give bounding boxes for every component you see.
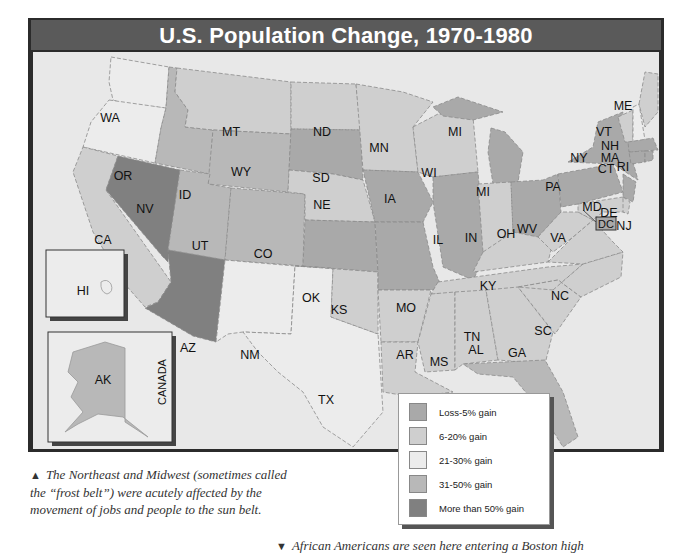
state-ks bbox=[303, 220, 378, 272]
legend-label: 21-30% gain bbox=[439, 455, 492, 466]
label-mt: MT bbox=[222, 125, 240, 139]
map-area: WA OR CA NV ID WY MT UT CO AZ NM TX ND S… bbox=[33, 52, 659, 449]
label-mo: MO bbox=[396, 301, 416, 315]
label-ny: NY bbox=[570, 151, 588, 165]
label-in: IN bbox=[465, 231, 478, 245]
label-mn: MN bbox=[369, 141, 388, 155]
state-nj bbox=[623, 174, 636, 202]
caption-right-text: African Americans are seen here entering… bbox=[292, 538, 584, 553]
label-mi: MI bbox=[476, 185, 490, 199]
label-ky: KY bbox=[480, 279, 497, 293]
state-nd bbox=[291, 82, 361, 130]
label-wa: WA bbox=[100, 111, 120, 125]
label-ar: AR bbox=[396, 348, 413, 362]
label-ak: AK bbox=[95, 373, 112, 387]
legend-item: 21-30% gain bbox=[409, 450, 492, 470]
label-pa: PA bbox=[545, 180, 561, 194]
label-canada: CANADA bbox=[156, 358, 168, 405]
legend-label: More than 50% gain bbox=[439, 503, 524, 514]
label-wi: WI bbox=[421, 166, 436, 180]
label-nd: ND bbox=[313, 125, 331, 139]
us-map: WA OR CA NV ID WY MT UT CO AZ NM TX ND S… bbox=[33, 52, 659, 449]
legend-item: 31-50% gain bbox=[409, 474, 492, 494]
label-al: AL bbox=[468, 343, 483, 357]
legend-swatch-50-plus bbox=[409, 499, 427, 517]
label-tn: TN bbox=[464, 330, 481, 344]
state-wa bbox=[109, 57, 169, 108]
legend-item: More than 50% gain bbox=[409, 498, 524, 518]
label-nm: NM bbox=[240, 348, 259, 362]
label-dc: DC bbox=[598, 218, 614, 230]
legend-swatch-loss bbox=[409, 403, 427, 421]
label-ut: UT bbox=[192, 239, 209, 253]
legend-swatch-6-20 bbox=[409, 427, 427, 445]
label-wy: WY bbox=[231, 165, 252, 179]
label-ks: KS bbox=[331, 303, 348, 317]
legend-label: Loss-5% gain bbox=[439, 407, 497, 418]
label-me: ME bbox=[614, 99, 633, 113]
legend-item: Loss-5% gain bbox=[409, 402, 497, 422]
label-ga: GA bbox=[508, 346, 527, 360]
label-ia: IA bbox=[384, 192, 396, 206]
label-ne: NE bbox=[313, 198, 330, 212]
state-ri bbox=[645, 151, 653, 162]
legend-swatch-31-50 bbox=[409, 475, 427, 493]
up-triangle-icon: ▲ bbox=[30, 469, 41, 481]
label-ca: CA bbox=[94, 233, 112, 247]
map-title: U.S. Population Change, 1970-1980 bbox=[31, 20, 661, 50]
label-az: AZ bbox=[180, 341, 196, 355]
label-sc: SC bbox=[534, 324, 551, 338]
label-hi: HI bbox=[77, 284, 90, 298]
label-co: CO bbox=[254, 247, 273, 261]
caption-right: ▼African Americans are seen here enterin… bbox=[276, 537, 695, 554]
label-ri: RI bbox=[617, 160, 630, 174]
legend-label: 6-20% gain bbox=[439, 431, 487, 442]
label-id: ID bbox=[179, 188, 192, 202]
label-ms: MS bbox=[430, 355, 449, 369]
label-or: OR bbox=[114, 169, 133, 183]
state-nm bbox=[216, 260, 295, 342]
state-ct bbox=[629, 151, 645, 164]
label-nv: NV bbox=[136, 202, 154, 216]
caption-left: ▲The Northeast and Midwest (sometimes ca… bbox=[30, 466, 290, 518]
label-tx: TX bbox=[318, 393, 335, 407]
label-wv: WV bbox=[517, 222, 538, 236]
state-mi bbox=[488, 128, 523, 184]
caption-left-text: The Northeast and Midwest (sometimes cal… bbox=[30, 467, 287, 517]
label-md: MD bbox=[582, 200, 601, 214]
label-ok: OK bbox=[302, 291, 321, 305]
label-oh: OH bbox=[497, 227, 516, 241]
label-il: IL bbox=[433, 233, 443, 247]
label-mi-upper: MI bbox=[448, 125, 462, 139]
legend-swatch-21-30 bbox=[409, 451, 427, 469]
legend-item: 6-20% gain bbox=[409, 426, 487, 446]
label-ct: CT bbox=[598, 162, 615, 176]
label-sd: SD bbox=[312, 171, 329, 185]
down-triangle-icon: ▼ bbox=[276, 540, 287, 552]
legend: Loss-5% gain 6-20% gain 21-30% gain 31-5… bbox=[398, 393, 550, 525]
legend-label: 31-50% gain bbox=[439, 479, 492, 490]
label-vt: VT bbox=[596, 125, 612, 139]
label-nc: NC bbox=[551, 289, 569, 303]
label-nj: NJ bbox=[616, 219, 631, 233]
label-va: VA bbox=[550, 231, 566, 245]
state-wy bbox=[208, 130, 291, 192]
